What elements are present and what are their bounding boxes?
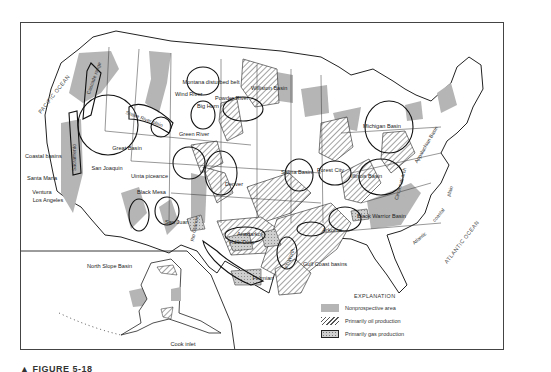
label-michigan-basin: Michigan Basin	[363, 123, 393, 129]
figure-caption: ▲ FIGURE 5-18	[20, 364, 92, 372]
label-santa-maria: Santa Maria	[27, 175, 49, 181]
label-palo-duro: Palo Duro	[227, 239, 257, 245]
label-anadarko: Anadarko	[233, 231, 265, 237]
label-coastal-basins: Coastal basins	[25, 153, 51, 159]
gas-dots-swatch-icon	[321, 330, 339, 338]
legend-label: Nonprospective area	[345, 305, 396, 311]
label-black-mesa: Black Mesa	[137, 189, 157, 195]
label-wind-river: Wind River	[175, 91, 199, 97]
legend-label: Primarily oil production	[345, 318, 401, 324]
legend-item-nonprospective: Nonprospective area	[321, 303, 396, 312]
nonprospective-swatch-icon	[321, 304, 339, 312]
label-powder-river: Powder River	[215, 95, 243, 101]
label-ventura: Ventura	[27, 189, 57, 195]
oil-hatch-swatch-icon	[321, 317, 339, 325]
label-cook-inlet: Cook inlet	[167, 341, 199, 347]
label-san-joaquin: San Joaquin	[87, 165, 127, 171]
legend-item-gas: Primarily gas production	[321, 329, 404, 338]
label-williston-basin: Williston Basin	[251, 85, 287, 91]
label-san-juan: San Juan	[165, 219, 185, 225]
label-montana-disturbed-belt: Montana disturbed belt	[181, 79, 241, 85]
label-salina-basin: Salina Basin	[281, 169, 311, 175]
label-arkoma: Arkoma	[317, 227, 347, 233]
label-uinta-piceance: Uinta piceance	[131, 173, 161, 179]
label-big-horn: Big Horn	[197, 103, 219, 109]
label-denver: Denver	[221, 181, 247, 187]
label-sacramento: Sacramento	[71, 144, 77, 171]
label-gulf-coast-basins: Gulf Coast basins	[297, 261, 353, 267]
label-great-basin: Great Basin	[107, 145, 147, 151]
label-permian: Permian	[249, 275, 277, 281]
legend-label: Primarily gas production	[345, 331, 404, 337]
map-frame: PACIFIC OCEAN ATLANTIC OCEAN Cascade ran…	[20, 22, 504, 350]
label-illinois-basin: Illinois Basin	[351, 173, 381, 179]
label-los-angeles: Los Angeles	[27, 197, 69, 203]
label-north-slope-basin: North Slope Basin	[87, 263, 127, 269]
label-black-warrior-basin: Black Warrior Basin	[357, 213, 387, 219]
legend-item-oil: Primarily oil production	[321, 316, 401, 325]
legend-title: EXPLANATION	[354, 293, 395, 299]
label-forest-city: Forest City	[317, 167, 343, 173]
label-green-river: Green River	[179, 131, 203, 137]
